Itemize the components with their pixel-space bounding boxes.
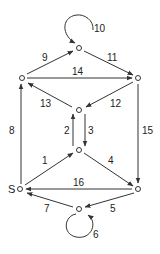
edge-label-3: 3 xyxy=(88,125,94,136)
edge-label-14: 14 xyxy=(72,66,84,77)
edge-label-4: 4 xyxy=(108,155,114,166)
edge-label-10: 10 xyxy=(94,23,106,34)
edge-7 xyxy=(27,193,73,207)
node-c xyxy=(20,76,25,81)
node-b xyxy=(77,108,82,113)
graph-diagram: 1 2 3 4 5 6 7 8 9 10 11 12 xyxy=(0,0,160,254)
edge-label-9: 9 xyxy=(42,52,48,63)
edge-label-7: 7 xyxy=(44,203,50,214)
node-e xyxy=(136,76,141,81)
edge-9 xyxy=(27,51,73,74)
edge-label-11: 11 xyxy=(107,52,118,63)
edge-label-6: 6 xyxy=(93,229,99,240)
node-g xyxy=(77,207,82,212)
node-f xyxy=(136,187,141,192)
edge-10 xyxy=(65,15,93,43)
edge-1 xyxy=(25,153,73,185)
edge-6 xyxy=(66,214,93,237)
edge-label-15: 15 xyxy=(142,125,154,136)
node-a xyxy=(77,148,82,153)
edge-label-5: 5 xyxy=(110,203,116,214)
node-s xyxy=(18,187,23,192)
edge-label-2: 2 xyxy=(64,125,70,136)
edge-label-16: 16 xyxy=(73,177,85,188)
edge-label-12: 12 xyxy=(110,98,122,109)
edge-label-13: 13 xyxy=(40,98,52,109)
node-label-s: S xyxy=(8,183,15,195)
edge-label-1: 1 xyxy=(42,155,48,166)
edge-label-8: 8 xyxy=(9,125,15,136)
node-d xyxy=(77,46,82,51)
